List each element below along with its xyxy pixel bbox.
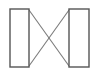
node-right-block[interactable] (69, 9, 89, 67)
diagram-svg (0, 0, 95, 76)
node-left-block[interactable] (10, 9, 29, 67)
diagram-canvas (0, 0, 95, 76)
